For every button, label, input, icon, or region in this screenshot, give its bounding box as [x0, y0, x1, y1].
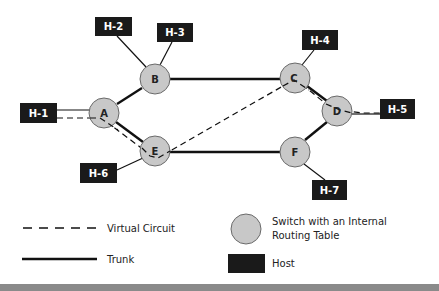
host-h6[interactable]: H-6: [80, 163, 117, 183]
bottom-bar: [0, 284, 439, 291]
switch-d-label: D: [333, 106, 341, 117]
switch-e-label: E: [152, 146, 159, 157]
trunk-a-e: [116, 122, 143, 142]
host-h2[interactable]: H-2: [95, 17, 132, 36]
legend-switch-label-line2: Routing Table: [272, 230, 339, 241]
switch-f-label: F: [292, 147, 299, 158]
switch-c-label: C: [290, 73, 297, 84]
host-h1-label: H-1: [29, 108, 49, 119]
legend-host-swatch: [228, 254, 265, 273]
host-h5-label: H-5: [388, 104, 408, 115]
link-h3-b: [160, 42, 172, 65]
host-h7[interactable]: H-7: [312, 180, 347, 200]
legend: Virtual Circuit Trunk Switch with an Int…: [22, 214, 387, 273]
host-h4-label: H-4: [310, 35, 330, 46]
network-diagram: A B C D E F H-1 H-2 H-3 H-4 H-5 H-6: [0, 0, 439, 291]
link-h7-f: [304, 164, 325, 180]
link-h6-e: [117, 158, 143, 170]
host-h7-label: H-7: [320, 185, 340, 196]
switch-b-label: B: [151, 74, 159, 85]
link-h2-b: [117, 36, 146, 67]
host-h4[interactable]: H-4: [302, 30, 338, 50]
legend-switch-label-line1: Switch with an Internal: [272, 216, 387, 227]
legend-host-label: Host: [272, 258, 295, 269]
host-h6-label: H-6: [89, 168, 109, 179]
trunk-a-b: [117, 88, 142, 104]
host-h2-label: H-2: [104, 21, 124, 32]
host-h3[interactable]: H-3: [157, 23, 193, 42]
host-h1[interactable]: H-1: [20, 103, 57, 123]
trunk-c-d: [307, 86, 327, 101]
host-h5[interactable]: H-5: [380, 99, 415, 119]
legend-switch-swatch: [231, 214, 261, 244]
host-h3-label: H-3: [165, 27, 185, 38]
legend-virtual-circuit-label: Virtual Circuit: [107, 223, 175, 234]
link-h4-c: [302, 50, 314, 65]
legend-trunk-label: Trunk: [106, 254, 134, 265]
trunk-f-d: [305, 122, 327, 140]
switch-a-label: A: [100, 108, 108, 119]
hosts: H-1 H-2 H-3 H-4 H-5 H-6 H-7: [20, 17, 415, 200]
